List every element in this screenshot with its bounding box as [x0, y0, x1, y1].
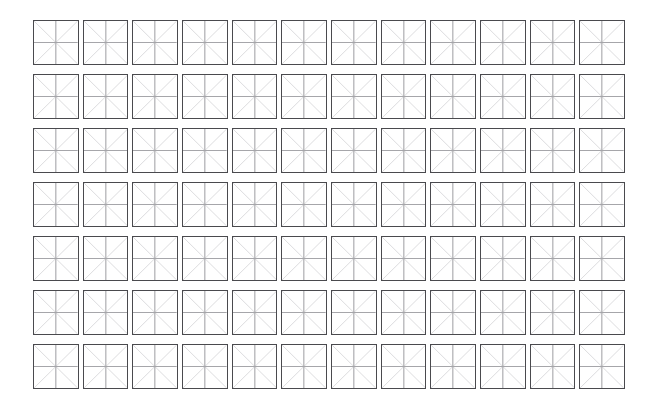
- practice-cell[interactable]: [480, 128, 526, 173]
- practice-cell[interactable]: [530, 20, 576, 65]
- practice-cell[interactable]: [33, 128, 79, 173]
- practice-cell[interactable]: [83, 128, 129, 173]
- practice-cell[interactable]: [232, 182, 278, 227]
- practice-cell[interactable]: [83, 20, 129, 65]
- practice-cell[interactable]: [480, 74, 526, 119]
- practice-cell[interactable]: [83, 236, 129, 281]
- practice-cell[interactable]: [579, 344, 625, 389]
- practice-cell[interactable]: [33, 20, 79, 65]
- practice-cell[interactable]: [480, 20, 526, 65]
- practice-cell[interactable]: [232, 236, 278, 281]
- practice-cell[interactable]: [33, 290, 79, 335]
- practice-cell[interactable]: [430, 128, 476, 173]
- diagonal-guide-icon: [531, 75, 575, 118]
- practice-cell[interactable]: [232, 74, 278, 119]
- practice-cell[interactable]: [132, 20, 178, 65]
- practice-cell[interactable]: [331, 182, 377, 227]
- practice-cell[interactable]: [132, 290, 178, 335]
- cell-guide-lines-icon: [233, 345, 277, 388]
- practice-cell[interactable]: [381, 344, 427, 389]
- diagonal-guide-icon: [580, 291, 624, 334]
- practice-cell[interactable]: [579, 128, 625, 173]
- practice-cell[interactable]: [33, 74, 79, 119]
- practice-cell[interactable]: [232, 290, 278, 335]
- practice-cell[interactable]: [132, 74, 178, 119]
- practice-cell[interactable]: [579, 20, 625, 65]
- practice-cell[interactable]: [530, 128, 576, 173]
- practice-cell[interactable]: [182, 128, 228, 173]
- diagonal-guide-icon: [84, 345, 128, 388]
- practice-cell[interactable]: [182, 74, 228, 119]
- diagonal-guide-icon: [431, 345, 475, 388]
- practice-cell[interactable]: [430, 290, 476, 335]
- practice-cell[interactable]: [331, 344, 377, 389]
- diagonal-guide-icon: [183, 183, 227, 226]
- practice-cell[interactable]: [132, 128, 178, 173]
- practice-cell[interactable]: [579, 74, 625, 119]
- practice-cell[interactable]: [381, 74, 427, 119]
- practice-cell[interactable]: [182, 236, 228, 281]
- practice-cell[interactable]: [430, 236, 476, 281]
- practice-cell[interactable]: [530, 74, 576, 119]
- practice-cell[interactable]: [331, 290, 377, 335]
- diagonal-guide-icon: [531, 237, 575, 280]
- diagonal-guide-icon: [431, 21, 475, 64]
- practice-cell[interactable]: [430, 74, 476, 119]
- practice-cell[interactable]: [530, 290, 576, 335]
- practice-cell[interactable]: [281, 344, 327, 389]
- practice-cell[interactable]: [33, 344, 79, 389]
- diagonal-guide-icon: [580, 291, 624, 334]
- cell-guide-lines-icon: [580, 75, 624, 118]
- practice-cell[interactable]: [281, 74, 327, 119]
- practice-cell[interactable]: [281, 290, 327, 335]
- practice-cell[interactable]: [232, 20, 278, 65]
- practice-cell[interactable]: [132, 344, 178, 389]
- practice-cell[interactable]: [83, 74, 129, 119]
- diagonal-guide-icon: [580, 183, 624, 226]
- practice-cell[interactable]: [381, 182, 427, 227]
- practice-cell[interactable]: [281, 182, 327, 227]
- diagonal-guide-icon: [133, 237, 177, 280]
- practice-cell[interactable]: [182, 182, 228, 227]
- practice-cell[interactable]: [232, 344, 278, 389]
- practice-cell[interactable]: [579, 290, 625, 335]
- practice-cell[interactable]: [331, 128, 377, 173]
- practice-cell[interactable]: [281, 236, 327, 281]
- practice-cell[interactable]: [83, 182, 129, 227]
- practice-cell[interactable]: [430, 20, 476, 65]
- practice-cell[interactable]: [381, 236, 427, 281]
- practice-cell[interactable]: [182, 290, 228, 335]
- practice-cell[interactable]: [331, 236, 377, 281]
- practice-cell[interactable]: [381, 128, 427, 173]
- practice-cell[interactable]: [480, 344, 526, 389]
- practice-cell[interactable]: [182, 344, 228, 389]
- practice-cell[interactable]: [331, 20, 377, 65]
- practice-cell[interactable]: [530, 344, 576, 389]
- diagonal-guide-icon: [233, 183, 277, 226]
- diagonal-guide-icon: [34, 291, 78, 334]
- practice-cell[interactable]: [132, 236, 178, 281]
- practice-cell[interactable]: [530, 182, 576, 227]
- practice-cell[interactable]: [579, 182, 625, 227]
- practice-cell[interactable]: [83, 290, 129, 335]
- practice-cell[interactable]: [381, 20, 427, 65]
- practice-cell[interactable]: [132, 182, 178, 227]
- practice-cell[interactable]: [381, 290, 427, 335]
- practice-cell[interactable]: [33, 236, 79, 281]
- practice-cell[interactable]: [33, 182, 79, 227]
- practice-cell[interactable]: [281, 20, 327, 65]
- cell-guide-lines-icon: [133, 183, 177, 226]
- practice-cell[interactable]: [331, 74, 377, 119]
- practice-cell[interactable]: [182, 20, 228, 65]
- practice-cell[interactable]: [281, 128, 327, 173]
- practice-cell[interactable]: [430, 344, 476, 389]
- practice-cell[interactable]: [530, 236, 576, 281]
- practice-cell[interactable]: [232, 128, 278, 173]
- practice-cell[interactable]: [480, 236, 526, 281]
- practice-cell[interactable]: [480, 182, 526, 227]
- practice-cell[interactable]: [480, 290, 526, 335]
- practice-cell[interactable]: [579, 236, 625, 281]
- practice-cell[interactable]: [83, 344, 129, 389]
- diagonal-guide-icon: [34, 21, 78, 64]
- practice-cell[interactable]: [430, 182, 476, 227]
